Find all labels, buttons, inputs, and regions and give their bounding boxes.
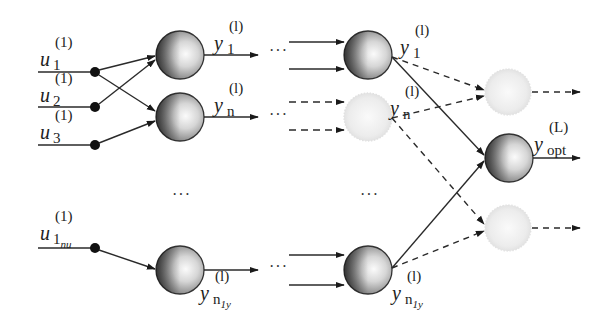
- ellipsis-vertical-layer1: ···: [172, 186, 191, 204]
- input-label-u1nu: u (1) 1nu: [40, 223, 50, 243]
- output-label-yopt: y (L) opt: [534, 134, 543, 154]
- neural-network-diagram: [0, 0, 607, 330]
- layerl-label-y1: y (l) 1: [400, 37, 409, 57]
- input-connections: [99, 56, 155, 269]
- ellipsis-vertical-layerl: ···: [360, 186, 379, 204]
- neuron-l-n-faded: [344, 93, 392, 141]
- layerl-label-yn: y (l) n: [390, 98, 399, 118]
- layer-l-neurons: [344, 31, 392, 294]
- layer-1-neurons: [156, 31, 204, 294]
- neuron-final-faded-bottom: [485, 205, 531, 251]
- neuron-final-faded-top: [485, 69, 531, 115]
- ellipsis-row3: ···: [269, 258, 288, 276]
- layer1-label-yn: y (l) n: [214, 95, 223, 115]
- input-nodes: [90, 67, 100, 253]
- final-layer-neurons: [485, 69, 533, 251]
- layerl-label-yn1y: y (l) n1y: [392, 283, 401, 303]
- ellipsis-row2: ···: [269, 106, 288, 124]
- input-label-u1: u (1) 1: [40, 49, 50, 69]
- layer-l-input-arrows-solid: [289, 42, 344, 285]
- input-label-u2: u (1) 2: [40, 85, 50, 105]
- layer1-label-yn1y: y (l) n1y: [200, 283, 209, 303]
- ellipsis-row1: ···: [269, 42, 288, 60]
- input-label-u3: u (1) 3: [40, 122, 50, 142]
- layer1-label-y1: y (l) 1: [214, 33, 223, 53]
- layer-l-input-arrows-dashed: [289, 102, 344, 130]
